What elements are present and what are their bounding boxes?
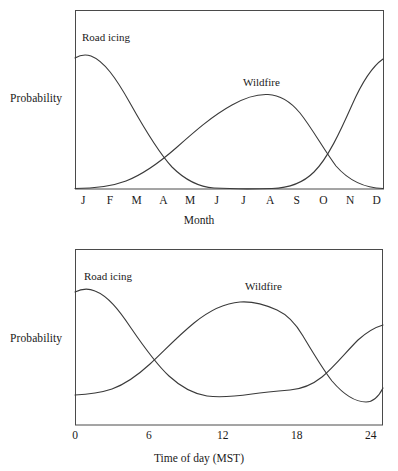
- diurnal-tick-2: 12: [217, 429, 229, 442]
- monthly-tick-11: D: [363, 194, 390, 207]
- diurnal-tick-3: 18: [291, 429, 303, 442]
- monthly-y-axis-label: Probability: [10, 92, 62, 105]
- monthly-tick-9: O: [310, 194, 337, 207]
- monthly-tick-6: J: [230, 194, 257, 207]
- chart-panel-diurnal: Probability Road icing Wildfire 06121824…: [0, 236, 398, 471]
- diurnal-x-tick-labels: 06121824: [0, 429, 398, 445]
- diurnal-series-road-icing: [75, 289, 383, 397]
- diurnal-tick-0: 0: [72, 429, 78, 442]
- diurnal-y-axis-label: Probability: [10, 332, 62, 345]
- monthly-tick-7: A: [257, 194, 284, 207]
- diurnal-label-road-icing: Road icing: [84, 270, 132, 283]
- monthly-x-axis-label: Month: [0, 214, 398, 227]
- monthly-tick-8: S: [283, 194, 310, 207]
- diurnal-label-wildfire: Wildfire: [245, 280, 282, 293]
- monthly-x-tick-labels: JFMAMJJASOND: [70, 194, 390, 207]
- monthly-tick-5: J: [203, 194, 230, 207]
- figure-container: Probability Road icing Wildfire JFMAMJJA…: [0, 0, 398, 471]
- monthly-series-wildfire: [75, 94, 383, 188]
- diurnal-tick-4: 24: [365, 429, 377, 442]
- monthly-tick-3: A: [150, 194, 177, 207]
- diurnal-series-wildfire: [75, 302, 383, 402]
- monthly-series-road-icing: [75, 55, 383, 189]
- diurnal-x-axis-label: Time of day (MST): [0, 452, 398, 465]
- monthly-label-road-icing: Road icing: [82, 31, 130, 44]
- monthly-tick-4: M: [177, 194, 204, 207]
- monthly-tick-0: J: [70, 194, 97, 207]
- monthly-tick-10: N: [337, 194, 364, 207]
- diurnal-tick-1: 6: [146, 429, 152, 442]
- monthly-tick-1: F: [97, 194, 124, 207]
- chart-panel-monthly: Probability Road icing Wildfire JFMAMJJA…: [0, 0, 398, 236]
- monthly-tick-2: M: [123, 194, 150, 207]
- monthly-label-wildfire: Wildfire: [243, 76, 280, 89]
